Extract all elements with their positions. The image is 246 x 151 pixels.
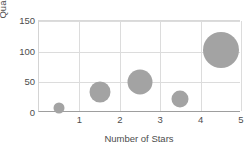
x-tick-label: 3 bbox=[145, 115, 175, 125]
plot-area: 150 100 50 0 1 2 3 4 5 bbox=[38, 20, 240, 112]
x-tick-label: 1 bbox=[64, 115, 94, 125]
chart-title bbox=[30, 0, 246, 2]
bubble-point[interactable] bbox=[203, 32, 239, 68]
gridline-vertical bbox=[201, 21, 202, 111]
x-axis-title: Number of Stars bbox=[38, 133, 240, 144]
gridline-vertical bbox=[160, 21, 161, 111]
gridline-vertical bbox=[241, 21, 242, 111]
bubble-chart: Quantity Sold 150 100 50 0 1 2 3 4 5 Num… bbox=[0, 0, 246, 151]
x-tick-label: 2 bbox=[105, 115, 135, 125]
bubble-point[interactable] bbox=[54, 103, 65, 114]
y-tick-label: 0 bbox=[1, 108, 35, 118]
bubble-point[interactable] bbox=[89, 81, 110, 102]
x-tick-label: 4 bbox=[186, 115, 216, 125]
gridline-horizontal bbox=[39, 21, 240, 22]
gridline-vertical bbox=[120, 21, 121, 111]
bubble-point[interactable] bbox=[172, 90, 189, 107]
y-tick-label: 50 bbox=[1, 77, 35, 87]
y-tick-label: 150 bbox=[1, 16, 35, 26]
x-tick-label: 5 bbox=[226, 115, 246, 125]
bubble-point[interactable] bbox=[128, 70, 153, 95]
y-tick-label: 100 bbox=[1, 47, 35, 57]
gridline-vertical bbox=[79, 21, 80, 111]
